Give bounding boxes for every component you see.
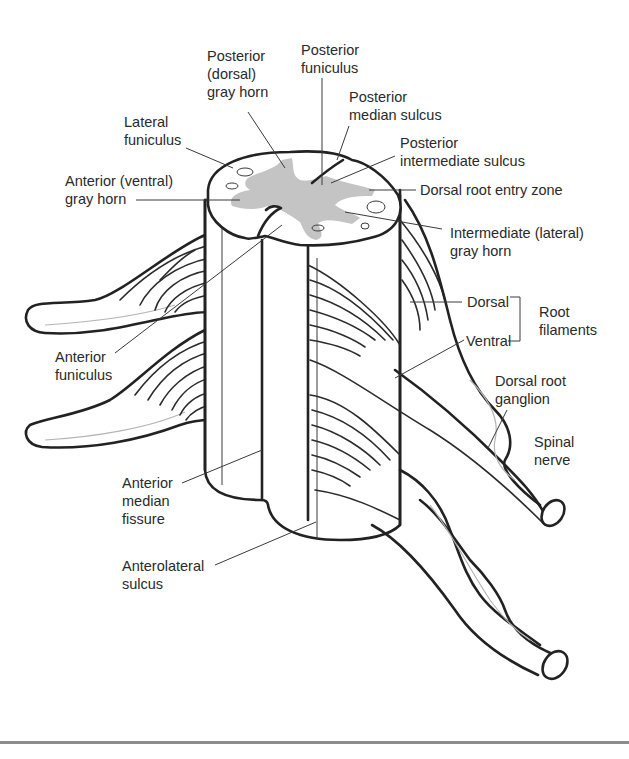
label-dorsal-root-ganglion: Dorsal root ganglion	[495, 372, 566, 408]
label-posterior-dorsal-gray-horn: Posterior (dorsal) gray horn	[207, 47, 268, 101]
left-upper-nerve	[26, 235, 210, 334]
label-lateral-funiculus: Lateral funiculus	[124, 113, 181, 149]
label-ventral: Ventral	[466, 332, 511, 350]
label-spinal-nerve: Spinal nerve	[534, 433, 574, 469]
right-lower-nerve	[372, 470, 573, 684]
label-anterior-ventral-gray-horn: Anterior (ventral) gray horn	[65, 172, 173, 208]
label-posterior-funiculus: Posterior funiculus	[301, 41, 359, 77]
spinal-cord-diagram: Posterior (dorsal) gray horn Posterior f…	[0, 0, 629, 759]
label-dorsal: Dorsal	[467, 293, 509, 311]
left-lower-nerve	[26, 330, 210, 448]
label-anterior-median-fissure: Anterior median fissure	[122, 474, 173, 528]
label-anterolateral-sulcus: Anterolateral sulcus	[122, 557, 204, 593]
label-anterior-funiculus: Anterior funiculus	[55, 348, 112, 384]
bottom-divider	[0, 741, 629, 744]
label-posterior-median-sulcus: Posterior median sulcus	[349, 88, 442, 124]
label-root-filaments: Root filaments	[539, 303, 597, 339]
label-posterior-intermediate-sulcus: Posterior intermediate sulcus	[400, 134, 525, 170]
label-dorsal-root-entry-zone: Dorsal root entry zone	[420, 181, 563, 199]
label-intermediate-lateral-gray-horn: Intermediate (lateral) gray horn	[450, 224, 584, 260]
